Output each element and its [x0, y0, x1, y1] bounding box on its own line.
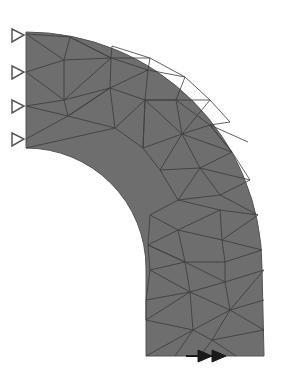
support-triangle-icon: [12, 29, 24, 42]
pin-supports: [12, 29, 24, 146]
fem-diagram: Finite element mesh of curved beam (quar…: [0, 0, 286, 383]
beam-body: [26, 32, 264, 356]
support-triangle-icon: [12, 100, 24, 113]
support-triangle-icon: [12, 66, 24, 79]
support-triangle-icon: [12, 133, 24, 146]
